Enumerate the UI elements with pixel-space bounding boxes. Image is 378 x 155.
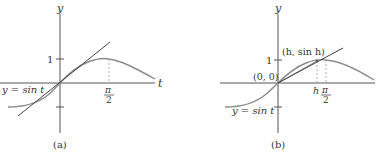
figure: y t 1 π 2 y = sin t (a) y 1 (0, 0) (h, s… <box>0 0 378 155</box>
panel-caption-b: (b) <box>271 139 285 150</box>
point-h-sinh <box>316 60 318 62</box>
panel-a: y t 1 π 2 y = sin t (a) <box>0 2 163 150</box>
curve-label: y = sin t <box>231 105 275 116</box>
tick-label-pi: π <box>104 85 112 95</box>
curve-label: y = sin t <box>1 84 45 95</box>
tangent-line <box>18 42 110 116</box>
y-axis-label: y <box>56 2 64 15</box>
panel-caption-a: (a) <box>53 139 67 150</box>
tick-label-pi: π <box>321 85 329 95</box>
panel-b: y 1 (0, 0) (h, sin h) h π 2 y = sin t (b… <box>220 2 375 150</box>
tick-label-1: 1 <box>47 54 53 65</box>
tick-label-2: 2 <box>323 95 329 105</box>
tick-label-1: 1 <box>266 55 272 66</box>
origin-label: (0, 0) <box>253 71 279 82</box>
t-axis-label: t <box>158 77 163 90</box>
tick-label-2: 2 <box>106 95 112 105</box>
tick-label-h: h <box>313 85 319 96</box>
point-label: (h, sin h) <box>282 46 325 57</box>
y-axis-label: y <box>274 2 282 15</box>
